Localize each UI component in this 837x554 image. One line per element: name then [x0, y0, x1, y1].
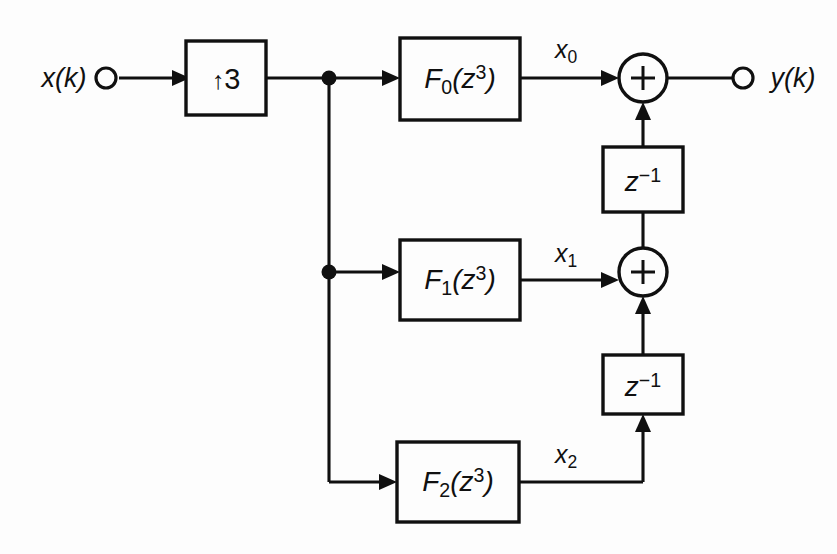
arrowhead-f1-input	[382, 264, 400, 280]
block-diagram-canvas: x(k) y(k) ↑3 F0(z3) F1(z3) F2(z3) x0 x1 …	[0, 0, 837, 554]
up-arrow-icon: ↑	[212, 66, 225, 94]
arrowhead-lower-delay-input	[635, 414, 651, 432]
filter-label-f0: F0(z3)	[424, 63, 496, 98]
output-terminal-circle	[733, 68, 753, 88]
arrowhead-adder1-bottom-input	[635, 102, 651, 120]
input-label: x(k)	[42, 65, 87, 92]
upsampler-label: ↑3	[212, 65, 241, 94]
delay-label-upper: z−1	[625, 166, 661, 196]
arrowhead-adder1-left-input	[601, 70, 619, 86]
arrowhead-adder2-bottom-input	[635, 296, 651, 314]
signal-label-x1: x1	[555, 241, 577, 271]
input-terminal-circle	[96, 68, 116, 88]
arrowhead-adder2-left-input	[601, 272, 619, 288]
output-label: y(k)	[771, 65, 816, 92]
arrowhead-f0-input	[382, 70, 400, 86]
signal-label-x0: x0	[555, 37, 577, 67]
delay-label-lower: z−1	[625, 371, 661, 401]
upsample-factor: 3	[224, 63, 240, 95]
diagram-vector-layer	[0, 0, 837, 554]
signal-label-x2: x2	[555, 442, 577, 472]
filter-label-f2: F2(z3)	[422, 466, 494, 501]
filter-label-f1: F1(z3)	[424, 264, 496, 299]
arrowhead-f2-input	[379, 474, 397, 490]
